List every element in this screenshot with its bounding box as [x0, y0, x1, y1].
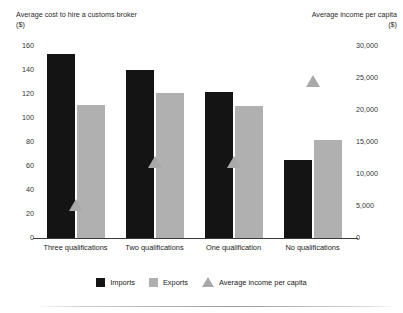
right-axis-tick: 15,000: [356, 138, 396, 146]
bar-imports: [126, 70, 154, 238]
legend-label: Imports: [110, 278, 135, 287]
bar-group: [126, 46, 184, 238]
legend-item[interactable]: Exports: [149, 278, 188, 287]
plot-area: [36, 46, 352, 238]
legend-item[interactable]: Imports: [96, 278, 135, 287]
category-label: No qualifications: [273, 243, 352, 252]
legend-swatch-exports: [149, 278, 158, 287]
income-marker-triangle: [227, 156, 241, 168]
legend-label: Average income per capita: [219, 278, 307, 287]
category-label: Two qualifications: [115, 243, 194, 252]
category-axis-labels: Three qualificationsTwo qualificationsOn…: [36, 243, 352, 257]
category-label: Three qualifications: [36, 243, 115, 252]
bar-imports: [284, 160, 312, 238]
legend-swatch-income: [202, 277, 214, 287]
right-axis-tick: 30,000: [356, 42, 396, 50]
left-axis-title: Average cost to hire a customs broker ($…: [16, 10, 206, 29]
right-axis-title: Average income per capita ($): [247, 10, 397, 29]
left-axis-tick: 40: [0, 186, 34, 194]
bar-exports: [235, 106, 263, 238]
right-axis-tick: 25,000: [356, 74, 396, 82]
legend-item[interactable]: Average income per capita: [202, 277, 307, 287]
left-axis-tick-labels: 020406080100120140160: [0, 46, 34, 238]
right-axis-tick-labels: 05,00010,00015,00020,00025,00030,000: [356, 46, 400, 238]
left-axis-tick: 60: [0, 162, 34, 170]
left-axis-tick: 140: [0, 66, 34, 74]
right-axis-tick: 10,000: [356, 170, 396, 178]
legend-label: Exports: [163, 278, 188, 287]
legend-swatch-imports: [96, 278, 105, 287]
dual-axis-combo-chart: Average cost to hire a customs broker ($…: [0, 0, 403, 313]
bar-exports: [77, 105, 105, 238]
footer-rule: [36, 306, 396, 307]
left-axis-tick: 160: [0, 42, 34, 50]
right-axis-tick: 0: [356, 234, 396, 242]
income-marker-triangle: [148, 156, 162, 168]
category-label: One qualification: [194, 243, 273, 252]
x-axis-line: [33, 238, 358, 239]
bar-exports: [314, 140, 342, 238]
income-marker-triangle: [69, 199, 83, 211]
right-axis-tick: 5,000: [356, 202, 396, 210]
income-marker-triangle: [306, 75, 320, 87]
chart-legend: ImportsExportsAverage income per capita: [0, 277, 403, 287]
left-axis-tick: 120: [0, 90, 34, 98]
left-axis-tick: 0: [0, 234, 34, 242]
left-axis-tick: 80: [0, 138, 34, 146]
left-axis-tick: 100: [0, 114, 34, 122]
left-axis-tick: 20: [0, 210, 34, 218]
bar-group: [205, 46, 263, 238]
right-axis-tick: 20,000: [356, 106, 396, 114]
